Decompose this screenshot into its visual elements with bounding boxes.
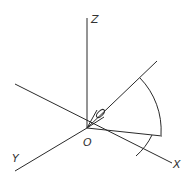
origin-label: O	[83, 136, 92, 149]
z-label: Z	[90, 13, 99, 26]
elevation-arc	[140, 78, 161, 135]
azimuth-arc	[136, 135, 152, 156]
y-axis	[15, 128, 87, 171]
x-label: X	[172, 158, 181, 171]
projection-ray	[87, 128, 162, 136]
coordinate-diagram: Z Y X O	[0, 0, 190, 188]
y-label: Y	[12, 152, 20, 165]
